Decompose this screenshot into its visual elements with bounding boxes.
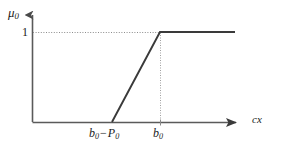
x-tick-label-b0-minus-p0: b0−P0 — [89, 127, 119, 139]
x-tick-upper-subscript: 0 — [159, 132, 163, 141]
y-axis-label-base: μ — [8, 5, 15, 20]
membership-function-figure: μ0 1 cx b0−P0 b0 — [0, 0, 282, 147]
membership-curve — [112, 32, 235, 122]
y-tick-label-one: 1 — [22, 26, 28, 38]
y-axis-label: μ0 — [8, 6, 19, 19]
x-tick-label-b0: b0 — [153, 127, 163, 139]
x-axis-label: cx — [252, 114, 262, 125]
x-tick-lower-term2-subscript: 0 — [115, 132, 119, 141]
y-axis-label-subscript: 0 — [15, 11, 19, 21]
plot-canvas — [0, 0, 282, 147]
minus-operator: − — [99, 126, 108, 140]
x-tick-lower-subscript: 0 — [95, 132, 99, 141]
